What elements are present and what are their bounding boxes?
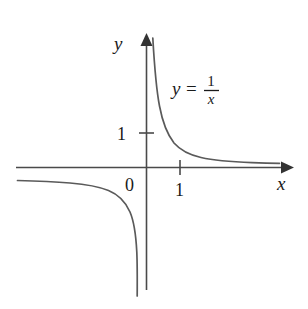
function-graph-figure: y x 0 1 1 y = 1 x xyxy=(0,0,308,309)
equation-lhs: y xyxy=(170,78,181,99)
x-axis-label: x xyxy=(276,173,286,194)
equation-operator: = xyxy=(186,78,197,99)
y-axis-label: y xyxy=(112,33,123,54)
graph-canvas: y x 0 1 1 y = 1 x xyxy=(0,0,308,309)
origin-label: 0 xyxy=(125,175,134,195)
y-tick-1-label: 1 xyxy=(117,124,126,144)
equation-numerator: 1 xyxy=(207,73,215,89)
equation-denominator: x xyxy=(207,91,215,107)
x-tick-1-label: 1 xyxy=(175,180,184,200)
